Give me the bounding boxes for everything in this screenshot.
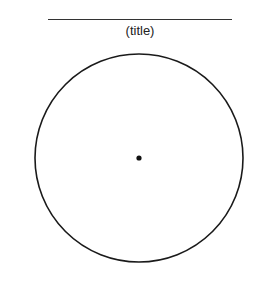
circle-figure (0, 0, 280, 285)
center-point (136, 155, 141, 160)
